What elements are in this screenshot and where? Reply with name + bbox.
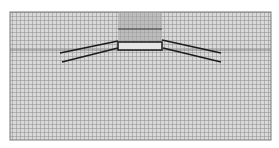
mesh-diagram	[0, 0, 279, 148]
excavation-column	[118, 12, 162, 42]
mesh-canvas	[0, 0, 279, 148]
embedded-plate	[118, 42, 162, 50]
